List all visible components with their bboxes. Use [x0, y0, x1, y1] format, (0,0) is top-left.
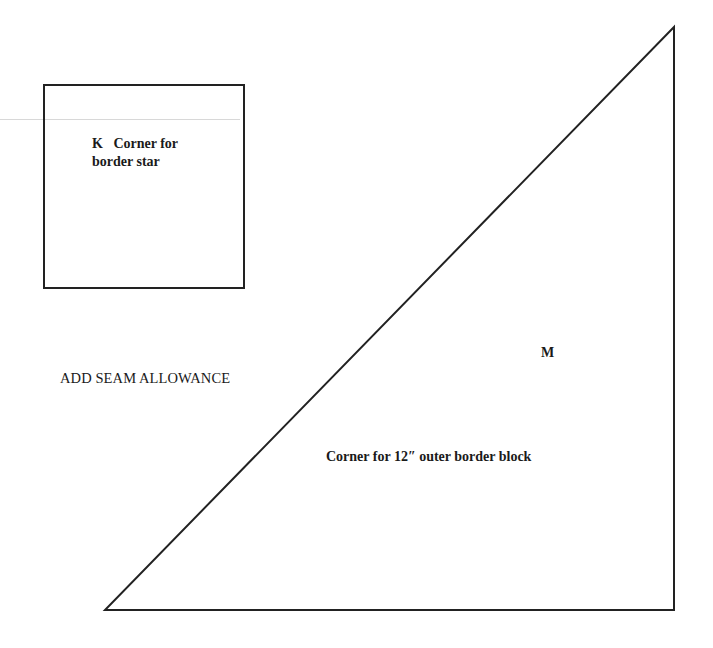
template-m-letter: M	[541, 345, 554, 361]
template-m-description: Corner for 12″ outer border block	[326, 449, 531, 465]
template-m-triangle-outline	[105, 27, 674, 610]
template-m-triangle	[0, 0, 713, 648]
